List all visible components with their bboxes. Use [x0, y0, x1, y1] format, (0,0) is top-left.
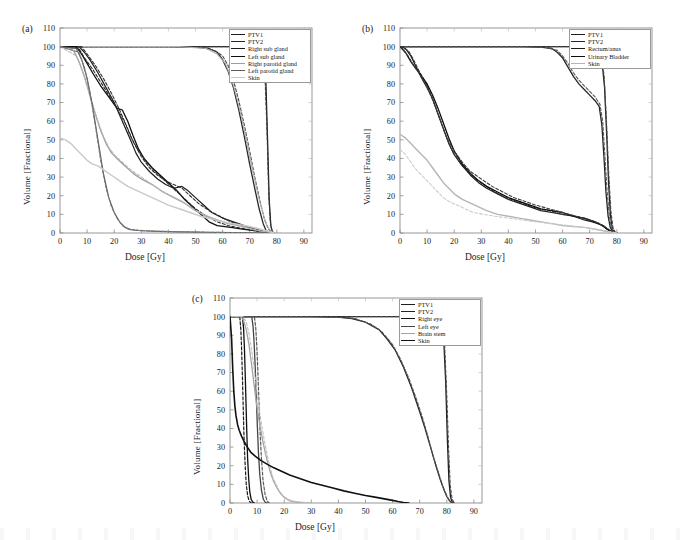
legend-swatch-line [571, 63, 585, 64]
legend-item-label: Left sub gland [248, 53, 284, 60]
svg-text:10: 10 [423, 237, 431, 246]
legend-swatch-line [231, 77, 245, 78]
legend-swatch-line [571, 56, 585, 57]
svg-text:90: 90 [300, 237, 308, 246]
legend-item-label: Rectum/anus [588, 45, 621, 52]
svg-text:100: 100 [383, 43, 395, 52]
legend-item-label: Skin [418, 337, 430, 344]
legend-item: PTV2 [571, 38, 648, 45]
legend-item: Skin [231, 74, 308, 81]
legend-item-label: Urinary Bladder [588, 53, 629, 60]
legend-item-label: Left parotid gland [248, 67, 293, 74]
legend-swatch-line [571, 41, 585, 42]
svg-text:30: 30 [307, 507, 315, 516]
svg-text:20: 20 [217, 462, 225, 471]
legend-swatch-line [231, 41, 245, 42]
panel-c: (c) Volume [Fractional] Dose [Gy] 010203… [170, 270, 511, 540]
panel-b: (b) Volume [Fractional] Dose [Gy] 010203… [340, 0, 681, 270]
legend-item: Brain stem [401, 330, 478, 337]
svg-text:10: 10 [47, 210, 55, 219]
svg-text:40: 40 [334, 507, 342, 516]
svg-text:20: 20 [280, 507, 288, 516]
legend-swatch-line [231, 48, 245, 49]
svg-text:90: 90 [640, 237, 648, 246]
svg-text:80: 80 [443, 507, 451, 516]
svg-text:110: 110 [43, 24, 55, 33]
svg-text:0: 0 [221, 499, 225, 508]
legend-item: PTV1 [401, 301, 478, 308]
panel-a: (a) Volume [Fractional] Dose [Gy] 010203… [0, 0, 341, 270]
svg-text:0: 0 [228, 507, 232, 516]
legend-swatch-line [401, 311, 415, 312]
svg-text:90: 90 [470, 507, 478, 516]
legend-item: PTV1 [571, 31, 648, 38]
svg-text:80: 80 [387, 80, 395, 89]
legend-item: Left sub gland [231, 53, 308, 60]
svg-text:70: 70 [416, 507, 424, 516]
svg-text:40: 40 [47, 154, 55, 163]
svg-text:20: 20 [450, 237, 458, 246]
svg-text:60: 60 [387, 117, 395, 126]
svg-text:10: 10 [253, 507, 261, 516]
svg-text:40: 40 [217, 424, 225, 433]
svg-text:70: 70 [586, 237, 594, 246]
panel-b-legend: PTV1PTV2Rectum/anusUrinary BladderSkin [569, 29, 651, 69]
legend-item: Urinary Bladder [571, 53, 648, 60]
svg-text:70: 70 [246, 237, 254, 246]
svg-text:50: 50 [361, 507, 369, 516]
svg-text:100: 100 [213, 313, 225, 322]
svg-text:90: 90 [217, 331, 225, 340]
legend-item: Skin [401, 337, 478, 344]
legend-swatch-line [401, 326, 415, 327]
legend-item-label: Skin [248, 74, 260, 81]
legend-item: PTV2 [231, 38, 308, 45]
svg-text:70: 70 [387, 98, 395, 107]
svg-text:20: 20 [387, 192, 395, 201]
legend-item: Skin [571, 60, 648, 67]
legend-item-label: PTV2 [418, 308, 433, 315]
svg-text:30: 30 [217, 443, 225, 452]
svg-text:80: 80 [613, 237, 621, 246]
legend-swatch-line [571, 48, 585, 49]
legend-item: Left eye [401, 323, 478, 330]
svg-text:10: 10 [83, 237, 91, 246]
svg-text:50: 50 [217, 406, 225, 415]
panel-c-legend: PTV1PTV2Right eyeLeft eyeBrain stemSkin [399, 299, 481, 346]
legend-item-label: Left eye [418, 323, 439, 330]
svg-text:30: 30 [477, 237, 485, 246]
svg-text:0: 0 [51, 229, 55, 238]
svg-text:50: 50 [191, 237, 199, 246]
svg-text:10: 10 [217, 480, 225, 489]
legend-item: Right sub gland [231, 45, 308, 52]
svg-text:0: 0 [58, 237, 62, 246]
legend-item-label: PTV2 [248, 38, 263, 45]
svg-text:70: 70 [217, 368, 225, 377]
legend-item-label: PTV1 [418, 301, 433, 308]
svg-text:50: 50 [531, 237, 539, 246]
legend-item: Rectum/anus [571, 45, 648, 52]
svg-text:20: 20 [47, 192, 55, 201]
svg-text:60: 60 [388, 507, 396, 516]
legend-item-label: PTV1 [588, 31, 603, 38]
legend-item-label: Right parotid gland [248, 60, 297, 67]
legend-item: Right parotid gland [231, 60, 308, 67]
svg-text:100: 100 [43, 43, 55, 52]
svg-text:110: 110 [383, 24, 395, 33]
svg-text:80: 80 [273, 237, 281, 246]
svg-text:90: 90 [387, 61, 395, 70]
svg-text:40: 40 [387, 154, 395, 163]
svg-text:80: 80 [217, 350, 225, 359]
svg-text:40: 40 [504, 237, 512, 246]
legend-swatch-line [231, 63, 245, 64]
svg-text:70: 70 [47, 98, 55, 107]
svg-text:60: 60 [217, 387, 225, 396]
svg-text:30: 30 [137, 237, 145, 246]
legend-item-label: Skin [588, 60, 600, 67]
legend-item: Left parotid gland [231, 67, 308, 74]
legend-item-label: PTV1 [248, 31, 263, 38]
legend-swatch-line [231, 34, 245, 35]
legend-swatch-line [401, 333, 415, 334]
svg-text:10: 10 [387, 210, 395, 219]
legend-item-label: PTV2 [588, 38, 603, 45]
svg-text:60: 60 [218, 237, 226, 246]
